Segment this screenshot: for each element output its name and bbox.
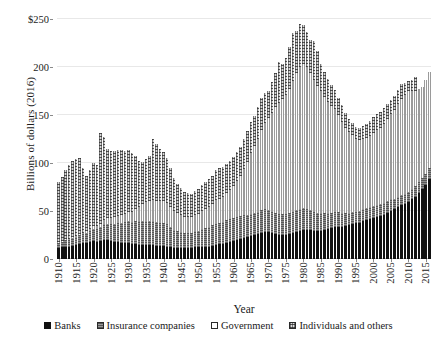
bar-segment-individuals (173, 178, 176, 211)
bar-segment-insurance (348, 213, 351, 225)
bar-1948 (190, 194, 193, 259)
bar-segment-government (383, 124, 386, 204)
chart-legend: BanksInsurance companiesGovernmentIndivi… (0, 320, 437, 331)
bar-1968 (260, 98, 263, 259)
bar-segment-individuals (348, 119, 351, 132)
bar-segment-individuals (148, 156, 151, 201)
bar-segment-insurance (330, 213, 333, 228)
bar-segment-insurance (341, 213, 344, 227)
bar-segment-government (313, 80, 316, 212)
bar-segment-banks (190, 248, 193, 259)
bar-segment-government (390, 114, 393, 199)
bar-segment-individuals (309, 40, 312, 73)
bar-1991 (341, 105, 344, 259)
bar-segment-banks (117, 242, 120, 259)
bar-1918 (85, 176, 88, 259)
bar-segment-government (197, 214, 200, 231)
bar-segment-individuals (414, 77, 417, 91)
bar-1942 (169, 168, 172, 259)
bar-segment-banks (96, 242, 99, 259)
bar-segment-government (320, 91, 323, 213)
bar-segment-banks (169, 247, 172, 259)
bar-1938 (155, 144, 158, 259)
bar-1930 (127, 150, 130, 259)
bar-2010 (407, 81, 410, 259)
bar-1940 (162, 152, 165, 259)
bar-segment-banks (404, 204, 407, 259)
bar-segment-insurance (152, 221, 155, 245)
bar-2015 (424, 80, 427, 259)
bar-segment-insurance (369, 207, 372, 219)
bar-segment-government (302, 64, 305, 208)
bar-segment-individuals (407, 81, 410, 91)
bar-segment-banks (295, 232, 298, 259)
bar-segment-insurance (292, 212, 295, 233)
bar-segment-government (341, 122, 344, 213)
bar-1965 (250, 122, 253, 259)
bar-segment-banks (372, 218, 375, 259)
bar-segment-banks (243, 238, 246, 259)
bar-2011 (411, 80, 414, 259)
bar-segment-government (295, 73, 298, 210)
bar-segment-insurance (215, 224, 218, 245)
bar-segment-insurance (299, 209, 302, 231)
bar-segment-insurance (285, 214, 288, 235)
bar-segment-banks (351, 224, 354, 259)
bar-1967 (257, 107, 260, 259)
bar-segment-insurance (71, 238, 74, 246)
bar-segment-government (232, 186, 235, 218)
bar-segment-individuals (169, 168, 172, 207)
bar-segment-government (134, 209, 137, 221)
bar-segment-insurance (337, 212, 340, 227)
bar-1913 (68, 165, 71, 259)
bar-segment-banks (386, 213, 389, 259)
bar-segment-individuals (138, 161, 141, 207)
bar-segment-banks (341, 227, 344, 259)
bar-segment-government (358, 140, 361, 211)
bar-segment-government (376, 130, 379, 205)
x-tick-label-1935: 1935 (141, 262, 152, 284)
bar-1943 (173, 178, 176, 259)
bar-2009 (404, 83, 407, 259)
bar-segment-government (334, 109, 337, 212)
bar-segment-banks (138, 245, 141, 259)
bar-1951 (201, 185, 204, 259)
bar-segment-individuals (369, 121, 372, 136)
bar-1986 (323, 72, 326, 259)
legend-item-insurance[interactable]: Insurance companies (97, 320, 195, 331)
bar-segment-banks (183, 248, 186, 259)
bar-segment-individuals (225, 164, 228, 193)
x-tick-label-2010: 2010 (403, 262, 414, 284)
bar-segment-government (204, 209, 207, 228)
bar-segment-individuals (239, 147, 242, 176)
bar-segment-government (162, 201, 165, 222)
bar-segment-banks (120, 243, 123, 259)
bar-segment-individuals (285, 58, 288, 94)
bar-2012 (414, 77, 417, 259)
bar-1945 (180, 188, 183, 259)
bar-2003 (383, 108, 386, 259)
bar-segment-individuals (110, 151, 113, 218)
bar-segment-individuals (323, 72, 326, 97)
y-tickmark-250 (50, 19, 53, 20)
x-tick-label-1960: 1960 (228, 262, 239, 284)
bar-1997 (362, 126, 365, 259)
bar-segment-banks (64, 247, 67, 259)
bar-segment-insurance (365, 208, 368, 220)
legend-item-banks[interactable]: Banks (44, 320, 80, 331)
bar-segment-insurance (288, 213, 291, 234)
legend-item-government[interactable]: Government (211, 320, 274, 331)
bar-1958 (225, 164, 228, 259)
bar-1993 (348, 119, 351, 259)
bar-1950 (197, 189, 200, 259)
bar-segment-banks (278, 235, 281, 259)
legend-item-individuals[interactable]: Individuals and others (289, 320, 392, 331)
bar-segment-individuals (117, 150, 120, 216)
bar-1954 (211, 176, 214, 260)
bar-segment-insurance (372, 206, 375, 218)
bar-segment-government (362, 139, 365, 209)
bar-1999 (369, 121, 372, 259)
bar-segment-individuals (386, 104, 389, 119)
bar-1915 (75, 159, 78, 259)
bar-segment-individuals (103, 137, 106, 220)
